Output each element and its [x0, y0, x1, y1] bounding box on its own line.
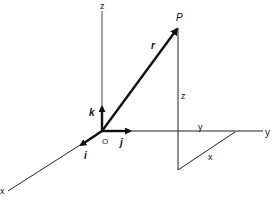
x-distance-label: x	[208, 152, 213, 162]
coordinate-diagram: z y x O k j i P r z y x	[0, 0, 279, 208]
x-axis-label: x	[0, 186, 5, 196]
z-height-label: z	[181, 91, 186, 101]
unit-vector-k-label: k	[89, 107, 95, 118]
unit-vector-i-label: i	[84, 150, 87, 161]
vector-r-label: r	[151, 40, 156, 51]
point-p-label: P	[176, 12, 183, 23]
x-component-line	[178, 132, 235, 170]
unit-vector-i	[81, 131, 102, 145]
y-axis-label: y	[265, 127, 270, 138]
position-vector-r	[102, 29, 177, 131]
z-axis-label: z	[100, 1, 105, 11]
origin-label: O	[102, 137, 108, 146]
unit-vector-j-label: j	[118, 137, 123, 148]
y-distance-label: y	[198, 122, 203, 132]
